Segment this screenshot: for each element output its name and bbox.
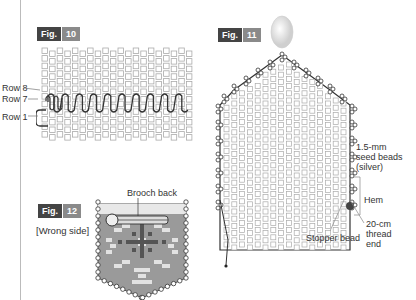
fig10-badge-number: 10 — [62, 27, 80, 41]
fig11-leader-lines — [330, 175, 370, 235]
seed-beads-label-3: (silver) — [356, 162, 383, 172]
oval-bead-icon — [271, 16, 293, 48]
fig12-badge-number: 12 — [63, 204, 81, 218]
thread-end-label-3: end — [366, 239, 381, 249]
wrong-side-label: [Wrong side] — [36, 226, 89, 236]
fig12-badge-word: Fig. — [38, 204, 62, 218]
fig12-badge: Fig. 12 — [38, 204, 81, 218]
fig10-bead-grid — [36, 46, 196, 141]
fig10-badge-word: Fig. — [37, 27, 61, 41]
page-margin-line — [20, 0, 21, 300]
seed-beads-label-1: 1.5-mm — [356, 142, 387, 152]
row-leader-lines — [24, 86, 46, 118]
fig10-badge: Fig. 10 — [37, 27, 80, 41]
brooch-back-label: Brooch back — [127, 188, 177, 198]
seed-beads-label-2: seed beads — [356, 152, 403, 162]
fig12-brooch-pocket — [92, 198, 192, 300]
